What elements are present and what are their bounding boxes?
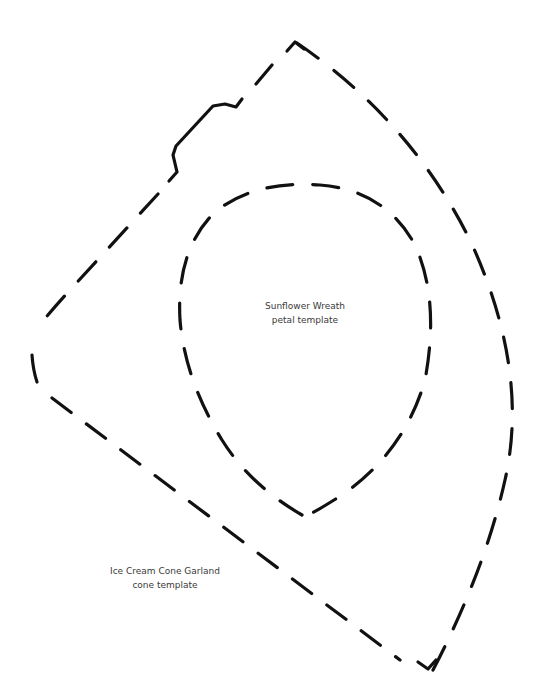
cone-upper-left-dashes	[256, 65, 272, 84]
cone-solid-segment	[169, 99, 242, 181]
cone-subtitle: cone template	[100, 578, 230, 592]
cone-left-corner	[32, 355, 37, 382]
sunflower-title: Sunflower Wreath	[240, 299, 370, 313]
template-canvas	[0, 0, 536, 696]
ice-cream-cone-label: Ice Cream Cone Garland cone template	[100, 564, 230, 592]
cone-right-dashed-edge	[297, 43, 512, 670]
cone-title: Ice Cream Cone Garland	[100, 564, 230, 578]
petal-template-outline	[180, 184, 431, 515]
sunflower-petal-label: Sunflower Wreath petal template	[240, 299, 370, 327]
petal-dashed-edge	[180, 184, 431, 515]
cone-bottom-dashed-edge	[52, 398, 400, 660]
cone-left-dashed-edge	[38, 194, 158, 327]
sunflower-subtitle: petal template	[240, 313, 370, 327]
cone-apex-mark	[287, 42, 304, 51]
